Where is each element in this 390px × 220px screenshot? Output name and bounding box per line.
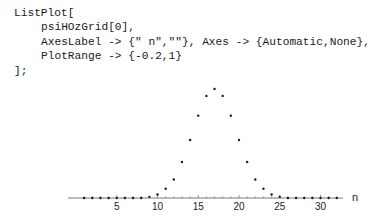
data-point (164, 188, 166, 190)
data-point (107, 197, 109, 199)
tick-label: 25 (274, 201, 286, 212)
data-points (83, 88, 338, 199)
data-point (91, 197, 93, 199)
tick-label: 20 (233, 201, 245, 212)
data-point (83, 197, 85, 199)
data-point (173, 178, 175, 180)
data-point (124, 197, 126, 199)
x-axis-ticks (84, 195, 337, 198)
data-point (205, 95, 207, 97)
data-point (230, 114, 232, 116)
data-point (336, 197, 338, 199)
data-point (303, 197, 305, 199)
data-point (116, 197, 118, 199)
data-point (181, 161, 183, 163)
data-point (156, 193, 158, 195)
data-point (279, 196, 281, 198)
data-point (132, 197, 134, 199)
data-point (311, 197, 313, 199)
data-point (222, 95, 224, 97)
data-point (262, 188, 264, 190)
data-point (189, 139, 191, 141)
data-point (140, 197, 142, 199)
tick-label: 10 (152, 201, 164, 212)
data-point (213, 88, 215, 90)
tick-label: 5 (114, 201, 120, 212)
data-point (295, 197, 297, 199)
data-point (246, 161, 248, 163)
data-point (197, 114, 199, 116)
data-point (327, 197, 329, 199)
x-axis-label: n (352, 191, 358, 203)
list-plot: 51015202530 n (0, 0, 390, 220)
data-point (254, 178, 256, 180)
data-point (319, 197, 321, 199)
x-axis-tick-labels: 51015202530 (114, 201, 327, 212)
data-point (238, 139, 240, 141)
tick-label: 15 (193, 201, 205, 212)
data-point (148, 196, 150, 198)
data-point (99, 197, 101, 199)
data-point (270, 193, 272, 195)
data-point (287, 197, 289, 199)
tick-label: 30 (315, 201, 327, 212)
